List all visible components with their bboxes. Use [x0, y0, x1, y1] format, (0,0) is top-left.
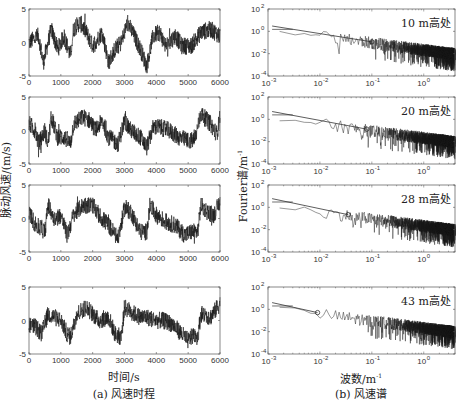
x-tick-label: 2000 — [84, 356, 102, 365]
x-tick-label: 0 — [27, 356, 32, 365]
time-history-subplot-a1: 50-50100020003000400050006000 — [19, 5, 230, 87]
y-tick-label: 5 — [22, 283, 27, 292]
time-history-subplot-a4: 50-50100020003000400050006000 — [19, 283, 230, 365]
y-tick-label: 10 — [251, 5, 260, 14]
x-tick-label: 6000 — [211, 166, 229, 175]
x-tick-label: 6000 — [211, 254, 229, 263]
height-annotation: 28 m高处 — [401, 192, 451, 206]
y-tick-exponent: 2 — [261, 91, 265, 97]
x-tick-label: 10 — [262, 357, 271, 366]
left-x-axis-label: 时间/s — [108, 371, 140, 384]
y-tick-label: 10 — [251, 93, 260, 102]
height-annotation: 20 m高处 — [401, 104, 451, 118]
y-tick-label: 10 — [251, 181, 260, 190]
right-caption: (b) 风速谱 — [335, 387, 387, 401]
y-tick-label: 10 — [251, 72, 260, 81]
x-tick-exponent: -2 — [323, 165, 329, 171]
spectrum-panel: 10210010-210-410-310-210-110010 m高处10210… — [251, 3, 455, 366]
x-tick-label: 3000 — [116, 356, 134, 365]
x-tick-label: 10 — [313, 255, 322, 264]
x-tick-exponent: -2 — [323, 355, 329, 361]
x-tick-label: 4000 — [147, 78, 165, 87]
x-tick-exponent: 0 — [427, 77, 431, 83]
y-tick-exponent: -4 — [261, 348, 267, 354]
y-tick-exponent: 2 — [261, 179, 265, 185]
x-tick-label: 5000 — [179, 78, 197, 87]
x-tick-label: 3000 — [116, 166, 134, 175]
x-tick-label: 3000 — [116, 254, 134, 263]
x-tick-label: 10 — [417, 167, 426, 176]
wind-speed-line — [29, 14, 220, 73]
y-tick-label: 10 — [251, 160, 260, 169]
y-tick-label: 10 — [251, 283, 260, 292]
height-annotation: 43 m高处 — [401, 294, 451, 308]
axes-frame — [29, 97, 220, 164]
figure: 50-5010002000300040005000600050-50100020… — [0, 0, 463, 404]
y-tick-label: 5 — [22, 5, 27, 14]
fit-line — [272, 303, 317, 313]
fit-line — [272, 26, 372, 42]
x-tick-label: 10 — [313, 167, 322, 176]
x-tick-exponent: 0 — [427, 355, 431, 361]
x-tick-label: 4000 — [147, 166, 165, 175]
y-tick-label: 10 — [251, 50, 260, 59]
fit-line — [272, 199, 348, 215]
x-tick-label: 1000 — [52, 254, 70, 263]
y-tick-label: 0 — [22, 39, 27, 48]
spectrum-subplot-b3: 10210010-210-410-310-210-110028 m高处 — [251, 179, 455, 264]
x-tick-label: 2000 — [84, 254, 102, 263]
time-history-subplot-a3: 50-50100020003000400050006000 — [19, 181, 230, 263]
y-tick-exponent: -4 — [261, 158, 267, 164]
y-tick-label: 10 — [251, 203, 260, 212]
y-tick-exponent: -2 — [261, 326, 267, 332]
x-tick-label: 10 — [262, 255, 271, 264]
x-tick-label: 4000 — [147, 254, 165, 263]
x-tick-label: 4000 — [147, 356, 165, 365]
x-tick-label: 3000 — [116, 78, 134, 87]
x-tick-label: 10 — [417, 79, 426, 88]
wind-speed-line — [29, 108, 220, 157]
y-tick-label: -5 — [19, 350, 27, 359]
right-y-axis-label: Fourier谱/m-1 — [236, 150, 250, 222]
x-tick-label: 10 — [365, 255, 374, 264]
x-tick-label: 6000 — [211, 356, 229, 365]
x-tick-label: 0 — [27, 78, 32, 87]
x-tick-exponent: 0 — [427, 253, 431, 259]
y-tick-exponent: -2 — [261, 48, 267, 54]
x-tick-label: 10 — [365, 79, 374, 88]
spectrum-line — [280, 31, 455, 71]
x-tick-label: 1000 — [52, 356, 70, 365]
y-tick-label: -5 — [19, 72, 27, 81]
spectrum-line — [280, 119, 455, 159]
x-tick-label: 5000 — [179, 166, 197, 175]
x-tick-label: 1000 — [52, 78, 70, 87]
x-tick-exponent: -3 — [271, 165, 277, 171]
y-tick-label: 10 — [251, 248, 260, 257]
left-caption: (a) 风速时程 — [93, 388, 156, 401]
right-y-label-text: Fourier谱/m-1 — [236, 150, 250, 222]
fit-line — [272, 112, 367, 130]
x-tick-label: 0 — [27, 166, 32, 175]
x-tick-label: 2000 — [84, 78, 102, 87]
left-y-label-text: 脉动风速/(m/s) — [0, 142, 13, 218]
right-x-axis-label: 波数/m-1 — [340, 372, 382, 386]
spectrum-line — [280, 307, 455, 349]
y-tick-label: -5 — [19, 160, 27, 169]
y-tick-label: 5 — [22, 93, 27, 102]
y-tick-label: 10 — [251, 138, 260, 147]
x-tick-exponent: -2 — [323, 77, 329, 83]
x-tick-exponent: -1 — [375, 165, 381, 171]
x-tick-label: 10 — [262, 167, 271, 176]
left-y-axis-label: 脉动风速/(m/s) — [0, 142, 13, 218]
x-tick-exponent: -1 — [375, 355, 381, 361]
wind-speed-line — [29, 297, 220, 348]
y-tick-exponent: 0 — [261, 113, 265, 119]
x-tick-exponent: -2 — [323, 253, 329, 259]
y-tick-label: 10 — [251, 350, 260, 359]
y-tick-exponent: -4 — [261, 246, 267, 252]
y-tick-exponent: -2 — [261, 136, 267, 142]
spectrum-subplot-b1: 10210010-210-410-310-210-110010 m高处 — [251, 3, 455, 88]
spectrum-subplot-b4: 10210010-210-410-310-210-110043 m高处 — [251, 281, 455, 366]
x-tick-exponent: 0 — [427, 165, 431, 171]
spectrum-line — [280, 207, 455, 247]
